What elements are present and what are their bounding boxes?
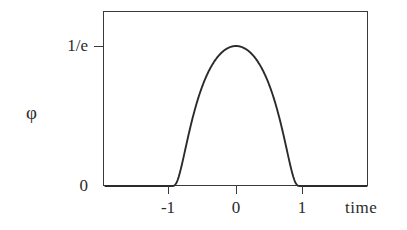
bump-function-curve: [103, 11, 368, 186]
x-tick-mark-one: [302, 186, 303, 194]
x-axis-label: time: [345, 199, 377, 216]
bump-function-figure: φ 1/e 0 -1 0 1 time: [0, 0, 407, 230]
y-tick-label-one-over-e: 1/e: [67, 36, 94, 56]
x-tick-label-minus-one: -1: [161, 199, 175, 216]
y-tick-label-zero-text: 0: [80, 176, 89, 195]
y-tick-label-one-over-e-text: 1/e: [67, 36, 88, 55]
x-tick-label-zero: 0: [232, 199, 241, 216]
x-tick-mark-minus-one: [168, 186, 169, 194]
y-tick-label-zero: 0: [80, 176, 95, 196]
x-tick-label-one: 1: [298, 199, 307, 216]
phi-curve-path: [105, 46, 366, 186]
y-axis-label: φ: [26, 103, 37, 122]
x-tick-mark-zero: [236, 186, 237, 194]
y-tick-mark-one-over-e: [94, 46, 103, 47]
